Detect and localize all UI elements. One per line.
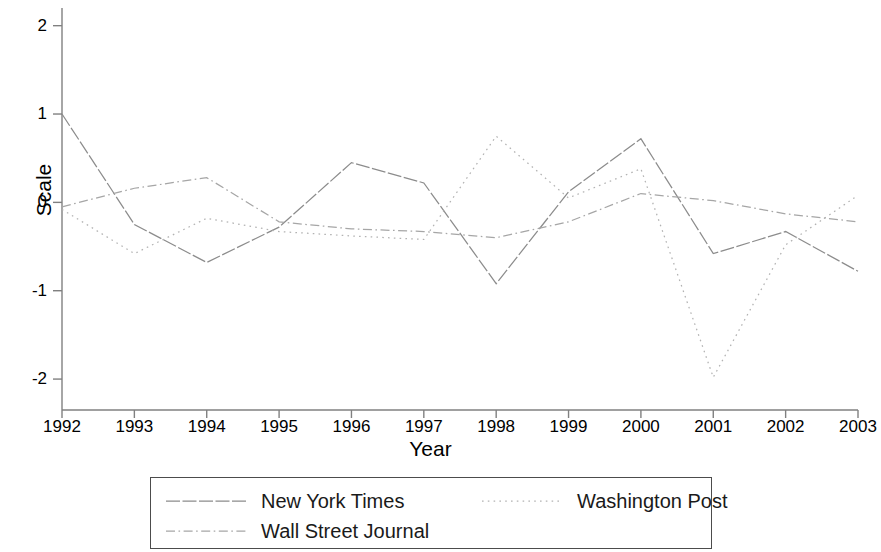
legend-label-washington-post: Washington Post [577, 490, 727, 513]
legend-item-wall-street-journal: Wall Street Journal [165, 516, 429, 546]
chart-svg [0, 0, 861, 462]
x-tick-label: 1998 [461, 418, 531, 435]
legend-swatch-new-york-times [165, 494, 247, 508]
legend-item-washington-post: Washington Post [481, 486, 727, 516]
x-tick-label: 1994 [172, 418, 242, 435]
chart-legend: New York Times Washington Post Wall Stre… [150, 477, 712, 549]
legend-item-new-york-times: New York Times [165, 486, 404, 516]
legend-label-wall-street-journal: Wall Street Journal [261, 520, 429, 543]
series-line-wall-street-journal [62, 178, 858, 238]
x-tick-label: 1996 [316, 418, 386, 435]
y-tick-label: 1 [7, 105, 47, 122]
axis-lines [62, 8, 858, 410]
data-series-lines [62, 114, 858, 377]
y-tick-label: 0 [7, 193, 47, 210]
x-axis-label: Year [0, 437, 861, 461]
plot-area: Scale Year 210-1-2 199219931994199519961… [0, 0, 861, 462]
x-tick-label: 2002 [751, 418, 821, 435]
series-line-washington-post [62, 136, 858, 377]
x-tick-label: 1992 [27, 418, 97, 435]
x-tick-label: 1999 [534, 418, 604, 435]
y-tick-label: -2 [7, 370, 47, 387]
y-tick-label: -1 [7, 282, 47, 299]
x-tick-label: 2000 [606, 418, 676, 435]
y-axis-label: Scale [32, 130, 56, 250]
legend-label-new-york-times: New York Times [261, 490, 404, 513]
x-tick-label: 1993 [99, 418, 169, 435]
x-tick-label: 2003 [823, 418, 881, 435]
x-tick-label: 2001 [678, 418, 748, 435]
series-line-new-york-times [62, 114, 858, 284]
y-tick-label: 2 [7, 17, 47, 34]
x-tick-label: 1997 [389, 418, 459, 435]
legend-swatch-washington-post [481, 494, 563, 508]
x-tick-marks [62, 410, 858, 418]
x-tick-label: 1995 [244, 418, 314, 435]
legend-swatch-wall-street-journal [165, 524, 247, 538]
